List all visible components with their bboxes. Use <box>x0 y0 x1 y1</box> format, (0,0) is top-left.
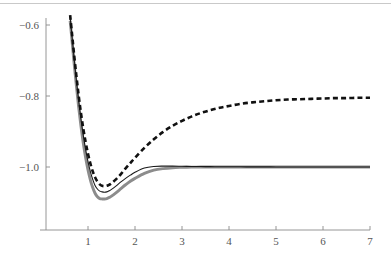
potential-energy-chart: −0.6−0.8−1.0 1234567 <box>0 0 391 258</box>
y-tick-label: −0.6 <box>19 19 39 31</box>
y-tick-label: −1.0 <box>19 161 39 173</box>
x-tick-label: 6 <box>320 235 326 247</box>
x-tick-label: 3 <box>179 235 185 247</box>
x-tick-label: 4 <box>226 235 232 247</box>
y-tick-label: −0.8 <box>19 90 39 102</box>
x-tick-label: 1 <box>85 235 91 247</box>
chart-background <box>0 0 391 258</box>
x-tick-label: 7 <box>367 235 373 247</box>
x-tick-label: 2 <box>132 235 138 247</box>
x-tick-label: 5 <box>273 235 279 247</box>
